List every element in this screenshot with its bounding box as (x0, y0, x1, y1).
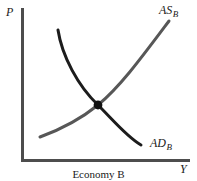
plot-area (0, 0, 197, 181)
figure-caption: Economy B (0, 168, 197, 181)
aggregate-demand-curve (58, 30, 141, 145)
as-label-text: AS (159, 3, 172, 17)
as-label-subscript: B (172, 9, 178, 19)
economy-b-supply-demand-figure: P Y ASB ADB Economy B (0, 0, 197, 181)
aggregate-demand-curve-label: ADB (150, 137, 172, 152)
equilibrium-point-marker (94, 101, 103, 110)
ad-label-text: AD (150, 136, 166, 150)
y-axis-label: P (6, 6, 13, 18)
ad-label-subscript: B (166, 142, 172, 152)
aggregate-supply-curve-label: ASB (159, 4, 178, 19)
